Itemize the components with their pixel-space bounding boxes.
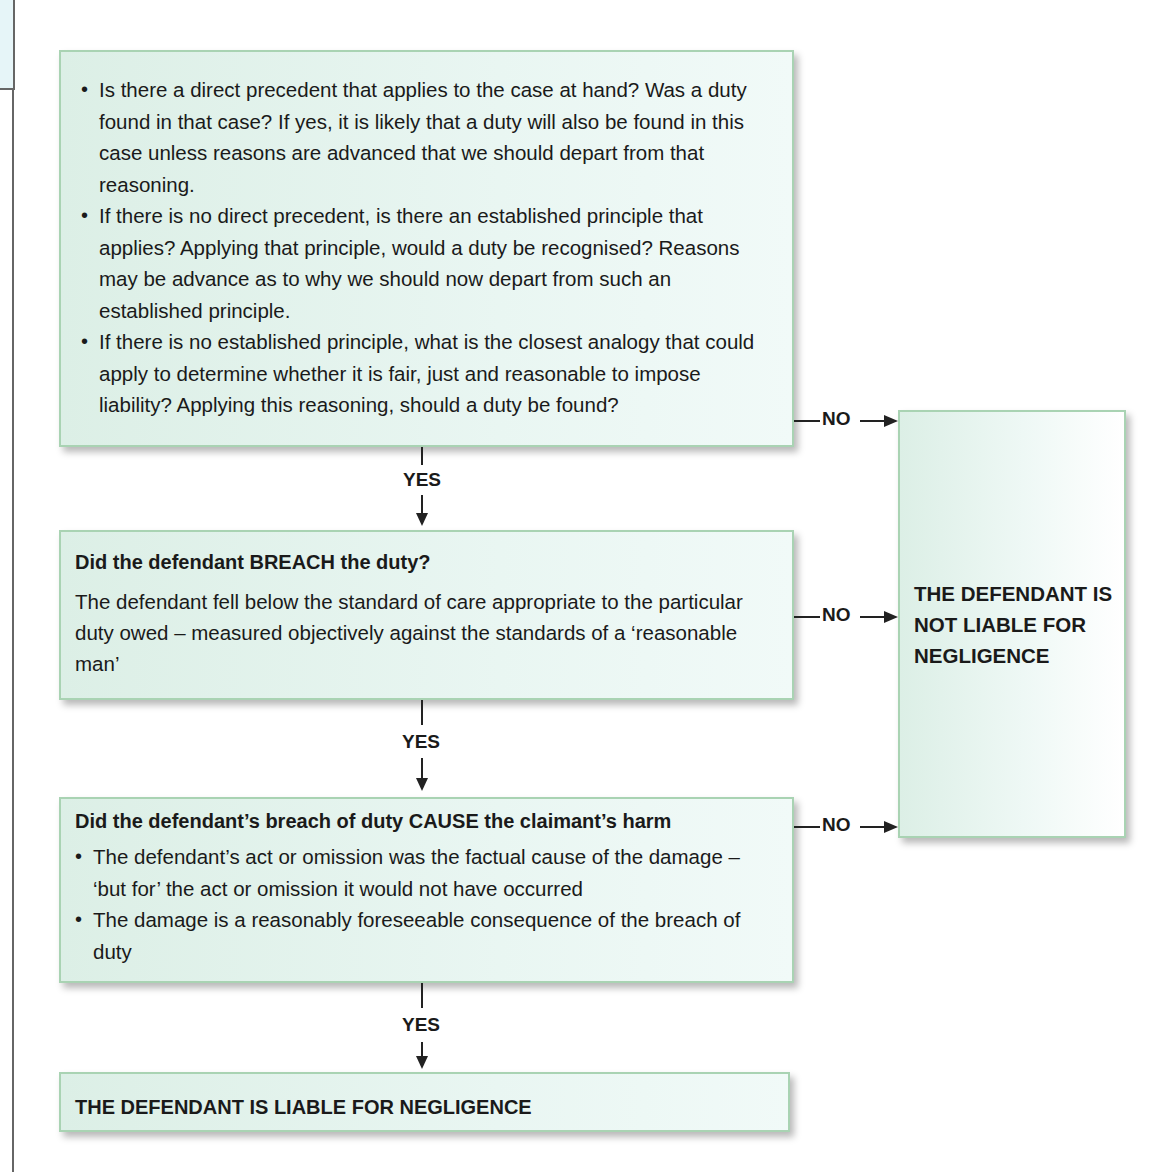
duty-bullet: If there is no direct precedent, is ther… bbox=[81, 200, 764, 326]
duty-bullet-list: Is there a direct precedent that applies… bbox=[81, 74, 764, 421]
not-liable-outcome-box: THE DEFENDANT IS NOT LIABLE FOR NEGLIGEN… bbox=[898, 410, 1126, 838]
causation-question-box: Did the defendant’s breach of duty CAUSE… bbox=[59, 797, 794, 983]
connector-line bbox=[421, 983, 423, 1008]
breach-question-box: Did the defendant BREACH the duty? The d… bbox=[59, 530, 794, 700]
causation-bullet-list: The defendant’s act or omission was the … bbox=[75, 841, 778, 967]
connector-line bbox=[860, 616, 886, 618]
breach-description: The defendant fell below the standard of… bbox=[75, 586, 778, 679]
connector-line bbox=[421, 758, 423, 780]
connector-line bbox=[860, 826, 886, 828]
connector-line bbox=[860, 420, 886, 422]
causation-bullet: The damage is a reasonably foreseeable c… bbox=[75, 904, 778, 967]
page-margin-rule bbox=[12, 88, 14, 1172]
causation-heading: Did the defendant’s breach of duty CAUSE… bbox=[75, 807, 778, 835]
no-label: NO bbox=[822, 408, 851, 430]
arrow-down-icon bbox=[416, 513, 428, 526]
liable-outcome-text: THE DEFENDANT IS LIABLE FOR NEGLIGENCE bbox=[75, 1092, 774, 1122]
causation-bullet: The defendant’s act or omission was the … bbox=[75, 841, 778, 904]
connector-line bbox=[421, 700, 423, 725]
connector-line bbox=[794, 420, 820, 422]
yes-label: YES bbox=[392, 469, 452, 491]
arrow-right-icon bbox=[884, 415, 898, 427]
no-label: NO bbox=[822, 604, 851, 626]
liable-outcome-box: THE DEFENDANT IS LIABLE FOR NEGLIGENCE bbox=[59, 1072, 790, 1132]
arrow-down-icon bbox=[416, 1056, 428, 1069]
arrow-down-icon bbox=[416, 778, 428, 791]
duty-bullet: If there is no established principle, wh… bbox=[81, 326, 764, 421]
yes-label: YES bbox=[391, 731, 451, 753]
page-edge-tab bbox=[0, 0, 15, 90]
arrow-right-icon bbox=[884, 821, 898, 833]
no-label: NO bbox=[822, 814, 851, 836]
connector-line bbox=[794, 616, 820, 618]
duty-bullet: Is there a direct precedent that applies… bbox=[81, 74, 764, 200]
connector-line bbox=[421, 447, 423, 465]
not-liable-outcome-text: THE DEFENDANT IS NOT LIABLE FOR NEGLIGEN… bbox=[914, 578, 1114, 671]
arrow-right-icon bbox=[884, 611, 898, 623]
breach-heading: Did the defendant BREACH the duty? bbox=[75, 548, 778, 576]
yes-label: YES bbox=[391, 1014, 451, 1036]
connector-line bbox=[421, 495, 423, 515]
duty-question-box: Is there a direct precedent that applies… bbox=[59, 50, 794, 447]
connector-line bbox=[794, 826, 820, 828]
